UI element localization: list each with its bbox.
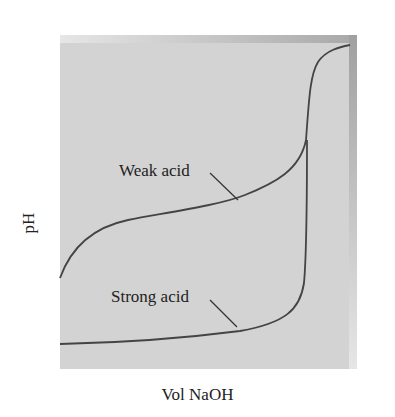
right-shadow-band <box>349 35 357 369</box>
strong-acid-label: Strong acid <box>111 287 189 307</box>
y-axis-label: pH <box>19 208 39 238</box>
titration-figure: Weak acid Strong acid pH Vol NaOH <box>0 0 395 417</box>
plot-area <box>0 0 395 417</box>
top-shadow-band <box>60 35 357 43</box>
x-axis-label: Vol NaOH <box>0 385 395 405</box>
weak-acid-label: Weak acid <box>119 161 190 181</box>
